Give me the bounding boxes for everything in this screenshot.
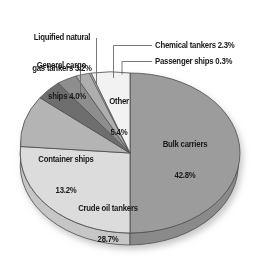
label-general-cargo-line1: General cargo — [6, 60, 86, 70]
label-bulk-carriers: Bulk carriers 42.8% — [152, 119, 219, 201]
label-crude-oil-line1: Crude oil tankers — [65, 203, 151, 213]
label-bulk-carriers-line1: Bulk carriers — [152, 139, 219, 149]
label-other: Other 5.4% — [99, 76, 138, 158]
label-chemical-tankers: Chemical tankers 2.3% — [155, 40, 251, 50]
label-other-line1: Other — [99, 96, 138, 106]
pie-chart: Liquified natural gas tankers 3.2% Gener… — [0, 0, 258, 276]
label-general-cargo-ships: General cargo ships 4.0% — [6, 40, 86, 122]
label-other-line2: 5.4% — [99, 127, 138, 137]
label-container-ships-line1: Container ships — [29, 154, 103, 164]
label-passenger-ships: Passenger ships 0.3% — [155, 56, 251, 66]
label-general-cargo-line2: ships 4.0% — [6, 91, 86, 101]
label-bulk-carriers-line2: 42.8% — [152, 170, 219, 180]
label-crude-oil-line2: 28.7% — [65, 234, 151, 244]
label-crude-oil-tankers: Crude oil tankers 28.7% — [65, 183, 151, 265]
